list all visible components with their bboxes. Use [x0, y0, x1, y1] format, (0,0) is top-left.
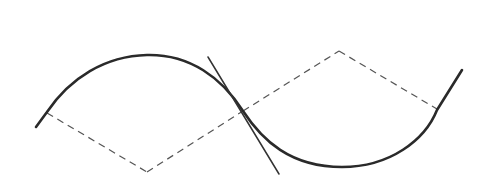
dashed-radius-line — [339, 51, 437, 109]
reverse-curve-diagram — [0, 0, 490, 195]
common-tangent-line — [208, 57, 279, 174]
dashed-radius-line — [147, 111, 243, 172]
dashed-radius-line — [243, 51, 339, 111]
diagram-svg — [0, 0, 490, 195]
dashed-radius-line — [47, 113, 147, 172]
reverse-curve — [36, 55, 462, 167]
